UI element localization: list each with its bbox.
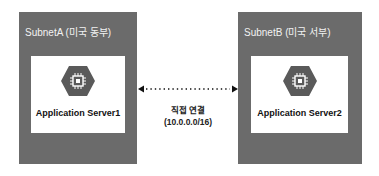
subnet-a-label: SubnetA (미국 동부) — [25, 24, 111, 39]
connection-label: 직접 연결 — [138, 103, 238, 115]
connection-arrow — [138, 84, 238, 94]
subnet-b-label: SubnetB (미국 서부) — [244, 24, 331, 39]
server-2-label: Application Server2 — [251, 108, 348, 118]
subnet-b: SubnetB (미국 서부) Application Server2 — [238, 12, 362, 164]
subnet-a: SubnetA (미국 동부) Application Server1 — [19, 12, 137, 164]
application-server-2: Application Server2 — [251, 56, 348, 133]
compute-engine-chip-icon — [283, 66, 317, 96]
connection-cidr: (10.0.0.0/16) — [138, 117, 238, 127]
server-1-label: Application Server1 — [31, 108, 125, 118]
compute-engine-chip-icon — [61, 66, 95, 96]
application-server-1: Application Server1 — [31, 56, 125, 133]
